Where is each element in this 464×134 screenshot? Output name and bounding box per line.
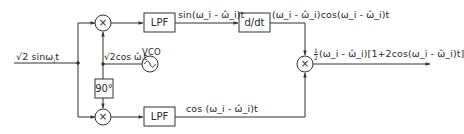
phase-shift-label: 90° [95, 84, 113, 94]
lpf-bottom-output-label: cos (ω_i - ω̂_i)t [186, 104, 258, 114]
lpf-top-output-label: sin(ω_i - ω̂_i)t [178, 10, 244, 20]
multiplier-right-symbol: × [299, 59, 311, 69]
lpf-bottom-label: LPF [144, 112, 175, 122]
vco-output-label: √2cos ω̂it [104, 52, 147, 66]
arrow-ddt-to-right-multiplier [270, 23, 305, 55]
multiplier-bottom-symbol: × [97, 112, 109, 122]
differentiator-output-label: (ω_i - ω̂_i)cos(ω_i - ω̂_i)t [272, 10, 389, 20]
one-half-fraction: 12 [314, 48, 318, 61]
multiplier-top-symbol: × [97, 18, 109, 28]
lpf-top-label: LPF [144, 18, 175, 28]
input-signal-label: √2 sinωit [16, 52, 59, 66]
output-signal-label: 12(ω_i - ω̂_i)[1+2cos(ω_i - ω̂_i)t] [314, 48, 464, 61]
